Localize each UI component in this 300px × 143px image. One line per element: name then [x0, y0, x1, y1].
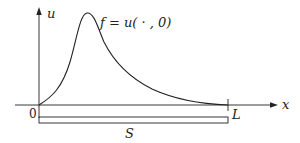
y-axis-arrow-icon	[36, 7, 41, 15]
segment-label: S	[125, 126, 134, 141]
diagram-canvas: u x 0 L f = u( · , 0) S	[0, 0, 300, 143]
end-label: L	[231, 107, 241, 122]
y-axis-label: u	[47, 6, 55, 21]
x-axis-arrow-icon	[270, 102, 278, 107]
x-axis-label: x	[282, 97, 290, 112]
y-axis	[36, 7, 41, 118]
segment-bar	[39, 117, 228, 123]
origin-label: 0	[29, 107, 37, 121]
curve-label: f = u( · , 0)	[99, 15, 171, 30]
